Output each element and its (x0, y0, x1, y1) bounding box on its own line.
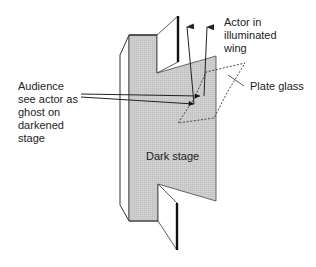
plate-glass-label: Plate glass (250, 80, 304, 93)
side-panel (120, 35, 129, 221)
actor-label: Actor in illuminated wing (224, 16, 277, 55)
plate-glass-leader (228, 75, 244, 86)
upper-wing (157, 16, 178, 73)
dark-stage-label: Dark stage (146, 150, 199, 163)
lower-wing (158, 184, 177, 250)
audience-label: Audience see actor as ghost on darkened … (18, 80, 78, 145)
diagram-canvas: Audience see actor as ghost on darkened … (0, 0, 316, 267)
